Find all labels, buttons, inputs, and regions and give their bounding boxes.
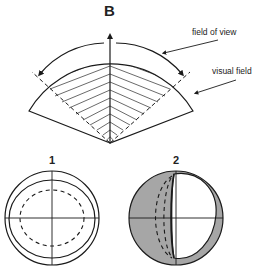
subfigure-1: 1 bbox=[5, 154, 99, 265]
visual-field-fan: field of view visual field bbox=[29, 27, 252, 144]
fov-arc-right bbox=[116, 43, 182, 74]
panel-label: B bbox=[104, 2, 115, 19]
visual-field-diagram: B bbox=[0, 0, 257, 270]
subfigure-2: 2 bbox=[129, 154, 223, 265]
field-of-view-pointer bbox=[164, 40, 218, 53]
visual-field-pointer bbox=[196, 80, 236, 93]
fov-arc-left bbox=[40, 43, 104, 74]
subfigure-1-number: 1 bbox=[49, 154, 55, 166]
subfigure-2-number: 2 bbox=[173, 154, 179, 166]
visual-field-label: visual field bbox=[212, 66, 252, 76]
field-of-view-label: field of view bbox=[192, 27, 237, 37]
fov-left-dashed-boundary bbox=[32, 72, 110, 143]
